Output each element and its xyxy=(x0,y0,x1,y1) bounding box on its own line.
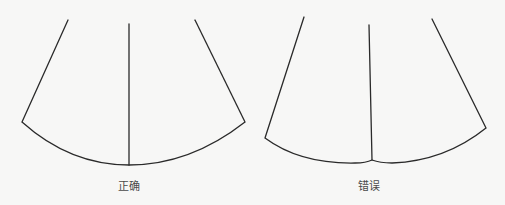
wrong-hem-curve xyxy=(265,128,486,163)
wrong-right-side-seam xyxy=(432,19,486,128)
wrong-caption: 错误 xyxy=(358,177,381,193)
skirt-pattern-comparison: 正确 错误 xyxy=(0,0,505,205)
wrong-left-side-seam xyxy=(265,17,304,138)
wrong-center-line xyxy=(369,25,372,160)
correct-left-side-seam xyxy=(22,20,68,122)
pattern-drawing xyxy=(0,0,505,205)
correct-right-side-seam xyxy=(195,20,245,122)
wrong-pattern-diagram xyxy=(265,17,486,163)
correct-hem-curve xyxy=(22,122,245,165)
correct-caption: 正确 xyxy=(118,177,141,193)
correct-pattern-diagram xyxy=(22,20,245,165)
